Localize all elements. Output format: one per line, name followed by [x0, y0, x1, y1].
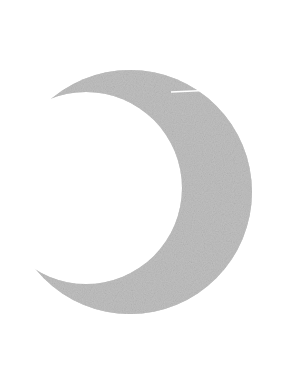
image-canvas: [0, 0, 282, 372]
crescent-moon-figure: [0, 0, 282, 372]
crescent-speckle-fill: [0, 0, 282, 372]
crescent-speckle-overlay: [0, 0, 282, 372]
